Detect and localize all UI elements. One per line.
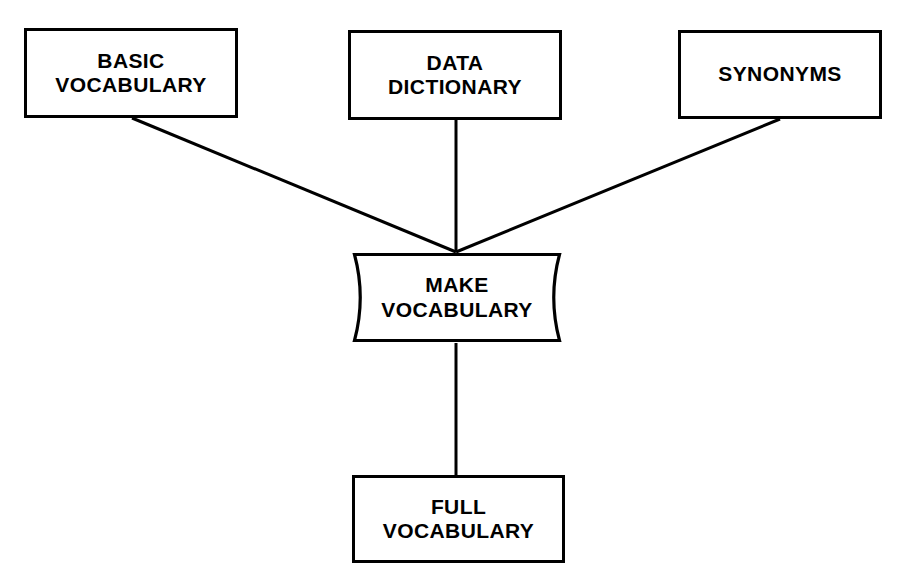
edge-synonyms-to-make	[456, 119, 780, 252]
node-label-line: VOCABULARY	[383, 519, 534, 543]
node-label-line: SYNONYMS	[718, 62, 841, 86]
node-label-line: BASIC	[97, 49, 164, 73]
node-label-line: FULL	[431, 495, 486, 519]
node-make-vocabulary[interactable]: MAKE VOCABULARY	[352, 252, 562, 343]
node-synonyms[interactable]: SYNONYMS	[678, 30, 882, 119]
node-label-line: VOCABULARY	[55, 73, 206, 97]
node-basic-vocabulary[interactable]: BASIC VOCABULARY	[24, 28, 238, 118]
node-full-vocabulary[interactable]: FULL VOCABULARY	[352, 475, 565, 563]
edge-basic-to-make	[132, 118, 456, 252]
diagram-canvas: BASIC VOCABULARY DATA DICTIONARY SYNONYM…	[0, 0, 905, 585]
node-data-dictionary[interactable]: DATA DICTIONARY	[348, 30, 562, 120]
node-label-group: MAKE VOCABULARY	[352, 252, 562, 343]
node-label-line: MAKE	[425, 273, 488, 297]
node-label-line: DICTIONARY	[388, 75, 522, 99]
node-label-line: DATA	[427, 51, 484, 75]
node-label-line: VOCABULARY	[381, 298, 532, 322]
